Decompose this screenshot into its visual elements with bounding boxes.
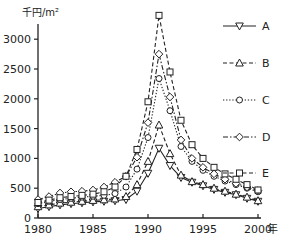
triangle-up-marker-icon (133, 181, 141, 188)
square-marker-icon (222, 171, 228, 177)
square-marker-icon (244, 182, 250, 188)
square-marker-icon (233, 176, 239, 182)
triangle-down-marker-icon (144, 170, 152, 177)
square-marker-icon (189, 142, 195, 148)
legend-label: C (262, 94, 270, 107)
series-c (35, 76, 261, 207)
y-unit-label: 千円/m² (22, 7, 59, 18)
legend-item-b: B (223, 57, 270, 70)
square-marker-icon (145, 99, 151, 105)
y-tick-label: 3000 (3, 33, 31, 46)
x-tick-label: 1990 (134, 223, 162, 236)
triangle-down-marker-icon (133, 188, 141, 195)
square-marker-icon (255, 187, 261, 193)
square-marker-icon (90, 191, 96, 197)
square-marker-icon (123, 173, 129, 179)
diamond-marker-icon (236, 133, 244, 141)
square-marker-icon (112, 184, 118, 190)
legend-label: E (262, 167, 269, 180)
y-tick-label: 1500 (3, 123, 31, 136)
square-marker-icon (237, 170, 243, 176)
legend: ABCDE (223, 20, 270, 180)
square-marker-icon (57, 195, 63, 201)
square-marker-icon (46, 197, 52, 203)
square-marker-icon (79, 192, 85, 198)
series-d (34, 50, 262, 203)
square-marker-icon (68, 194, 74, 200)
square-marker-icon (200, 155, 206, 161)
diamond-marker-icon (166, 93, 174, 101)
legend-item-d: D (223, 131, 270, 144)
land-price-line-chart: 0500100015002000250030001980198519901995… (0, 0, 290, 243)
circle-marker-icon (237, 97, 243, 103)
diamond-marker-icon (155, 50, 163, 58)
series-lines (34, 12, 262, 212)
circle-marker-icon (167, 108, 173, 114)
circle-marker-icon (112, 191, 118, 197)
circle-marker-icon (156, 76, 162, 82)
circle-marker-icon (134, 166, 140, 172)
triangle-down-marker-icon (155, 145, 163, 152)
square-marker-icon (35, 200, 41, 206)
x-tick-label: 1995 (189, 223, 217, 236)
y-tick-label: 500 (10, 182, 31, 195)
square-marker-icon (167, 69, 173, 75)
triangle-up-marker-icon (155, 121, 163, 128)
legend-item-c: C (223, 94, 270, 107)
circle-marker-icon (145, 135, 151, 141)
circle-marker-icon (123, 184, 129, 190)
x-tick-label: 1980 (24, 223, 52, 236)
series-line (38, 79, 258, 204)
x-unit-label: 年 (267, 222, 278, 236)
axes: 0500100015002000250030001980198519901995… (3, 7, 278, 236)
chart-canvas: 0500100015002000250030001980198519901995… (0, 0, 290, 243)
x-tick-label: 1985 (79, 223, 107, 236)
diamond-marker-icon (144, 119, 152, 127)
square-marker-icon (156, 12, 162, 18)
square-marker-icon (211, 164, 217, 170)
y-tick-label: 2500 (3, 63, 31, 76)
y-tick-label: 2000 (3, 93, 31, 106)
legend-label: D (262, 131, 270, 144)
square-marker-icon (101, 189, 107, 195)
legend-label: A (262, 20, 270, 33)
y-tick-label: 1000 (3, 152, 31, 165)
square-marker-icon (178, 117, 184, 123)
legend-item-a: A (223, 20, 270, 33)
square-marker-icon (134, 146, 140, 152)
legend-label: B (262, 57, 270, 70)
triangle-up-marker-icon (166, 150, 174, 157)
legend-item-e: E (223, 167, 269, 180)
triangle-up-marker-icon (144, 157, 152, 164)
